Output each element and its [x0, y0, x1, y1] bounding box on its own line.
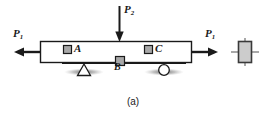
p1-left-label: P1: [13, 28, 23, 41]
p1-left-arrow-head: [14, 48, 24, 57]
beam-diagram-svg: [0, 0, 266, 129]
point-c-label: C: [155, 43, 162, 54]
p2-label: P2: [124, 4, 134, 17]
figure-caption: (a): [0, 96, 266, 107]
p2-arrow-head: [115, 32, 123, 43]
stress-element-rect: [239, 42, 252, 63]
beam-diagram-figure: P1 P1 P2 A C B (a): [0, 0, 266, 129]
point-a-label: A: [74, 43, 81, 54]
p1-right-arrow-head: [208, 48, 218, 57]
point-a-marker: [64, 46, 72, 54]
roller-support-icon: [159, 65, 170, 76]
point-c-marker: [145, 46, 153, 54]
p1-right-label: P1: [205, 28, 215, 41]
point-b-label: B: [114, 62, 121, 72]
